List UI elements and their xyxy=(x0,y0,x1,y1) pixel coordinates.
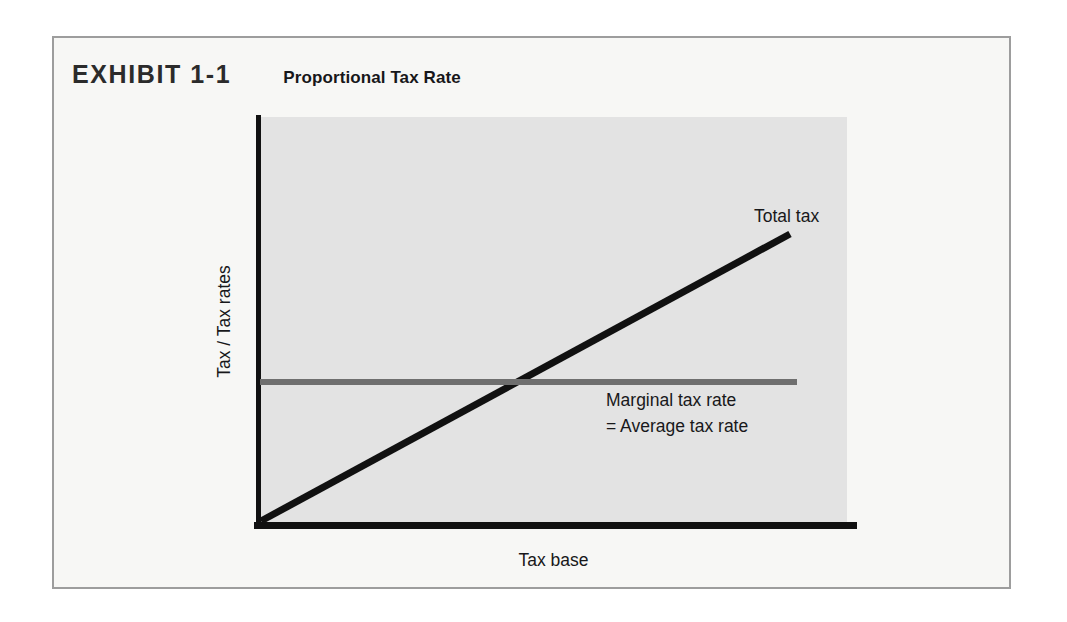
chart-canvas: Total tax Marginal tax rate = Average ta… xyxy=(54,38,1009,587)
tax-rate-label-group: Marginal tax rate = Average tax rate xyxy=(606,387,748,439)
marginal-average-rate-line xyxy=(260,379,797,385)
total-tax-line xyxy=(261,234,790,521)
y-axis-title-text: Tax / Tax rates xyxy=(214,265,235,378)
total-tax-label: Total tax xyxy=(754,203,819,229)
series-lines xyxy=(54,38,1013,591)
exhibit-panel: EXHIBIT 1-1 Proportional Tax Rate Total … xyxy=(52,36,1011,589)
marginal-tax-rate-label: Marginal tax rate xyxy=(606,387,748,413)
x-axis-title: Tax base xyxy=(260,550,847,571)
average-tax-rate-label: = Average tax rate xyxy=(606,413,748,439)
